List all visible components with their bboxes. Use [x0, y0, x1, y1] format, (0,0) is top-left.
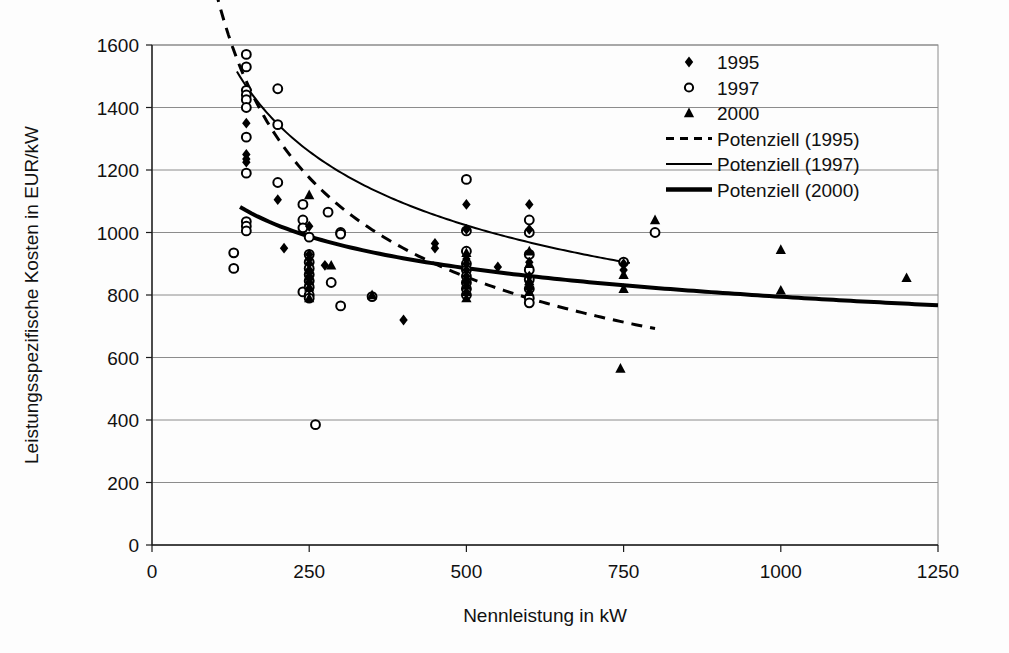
data-point-1997 [305, 233, 314, 242]
y-tick-label: 1400 [97, 98, 139, 119]
x-tick-label: 1000 [760, 561, 802, 582]
data-point-1997 [242, 169, 251, 178]
data-point-1997 [336, 230, 345, 239]
data-point-1997 [229, 264, 238, 273]
data-point-1995 [525, 199, 533, 210]
y-tick-label: 1200 [97, 160, 139, 181]
trendline-potenziell1997 [237, 72, 630, 264]
legend-label-potenziell1997: Potenziell (1997) [717, 154, 860, 175]
legend-label-potenziell2000: Potenziell (2000) [717, 180, 860, 201]
legend-label-1997: 1997 [717, 78, 759, 99]
data-point-1997 [242, 133, 251, 142]
legend-label-2000: 2000 [717, 103, 759, 124]
data-point-1995 [399, 315, 407, 326]
y-tick-label: 600 [107, 348, 139, 369]
data-point-2000 [776, 244, 786, 254]
data-points-group [229, 50, 911, 429]
y-axis-title: Leistungsspezifische Kosten in EUR/kW [21, 126, 42, 464]
data-point-1997 [298, 223, 307, 232]
legend-label-potenziell1995: Potenziell (1995) [717, 129, 860, 150]
x-tick-label: 250 [293, 561, 325, 582]
legend-label-1995: 1995 [717, 52, 759, 73]
data-point-2000 [524, 258, 534, 268]
y-tick-label: 200 [107, 473, 139, 494]
data-point-1997 [324, 208, 333, 217]
legend-marker-triangle [684, 108, 694, 118]
data-point-1995 [274, 194, 282, 205]
data-point-1997 [298, 200, 307, 209]
data-point-2000 [304, 190, 314, 200]
data-point-1997 [273, 84, 282, 93]
x-tick-label: 0 [147, 561, 158, 582]
data-point-2000 [615, 363, 625, 373]
data-point-1995 [242, 118, 250, 129]
data-point-2000 [650, 215, 660, 225]
data-point-1997 [273, 120, 282, 129]
data-point-1995 [462, 199, 470, 210]
y-tick-label: 1000 [97, 223, 139, 244]
data-point-1997 [242, 62, 251, 71]
y-tick-label: 0 [128, 535, 139, 556]
gridlines-group [152, 45, 938, 483]
y-tick-label: 1600 [97, 35, 139, 56]
data-point-2000 [776, 285, 786, 295]
y-tick-label: 400 [107, 410, 139, 431]
data-point-1995 [280, 243, 288, 254]
x-axis-title: Nennleistung in kW [463, 605, 627, 626]
legend-marker-diamond [685, 57, 693, 68]
x-tick-label: 500 [451, 561, 483, 582]
series-2000 [304, 190, 912, 373]
trendline-potenziell1995 [190, 0, 655, 329]
data-point-1997 [242, 50, 251, 59]
legend-marker-circle [685, 83, 693, 91]
data-point-1997 [525, 216, 534, 225]
data-point-1997 [462, 175, 471, 184]
data-point-1997 [525, 298, 534, 307]
data-point-1997 [336, 302, 345, 311]
data-point-1997 [242, 103, 251, 112]
y-tick-labels: 02004006008001000120014001600 [97, 35, 139, 556]
x-tick-label: 750 [608, 561, 640, 582]
y-tick-label: 800 [107, 285, 139, 306]
chart-container: 02004006008001000120014001600 0250500750… [0, 0, 1009, 653]
scatter-chart: 02004006008001000120014001600 0250500750… [0, 0, 1009, 653]
data-point-1997 [327, 278, 336, 287]
data-point-2000 [901, 272, 911, 282]
legend: 199519972000Potenziell (1995)Potenziell … [666, 52, 860, 201]
data-point-1997 [311, 420, 320, 429]
data-point-1997 [651, 228, 660, 237]
series-1997 [229, 50, 659, 429]
data-point-1997 [229, 248, 238, 257]
x-tick-label: 1250 [917, 561, 959, 582]
data-point-1997 [273, 178, 282, 187]
x-tick-labels: 025050075010001250 [147, 561, 959, 582]
data-point-1997 [242, 227, 251, 236]
